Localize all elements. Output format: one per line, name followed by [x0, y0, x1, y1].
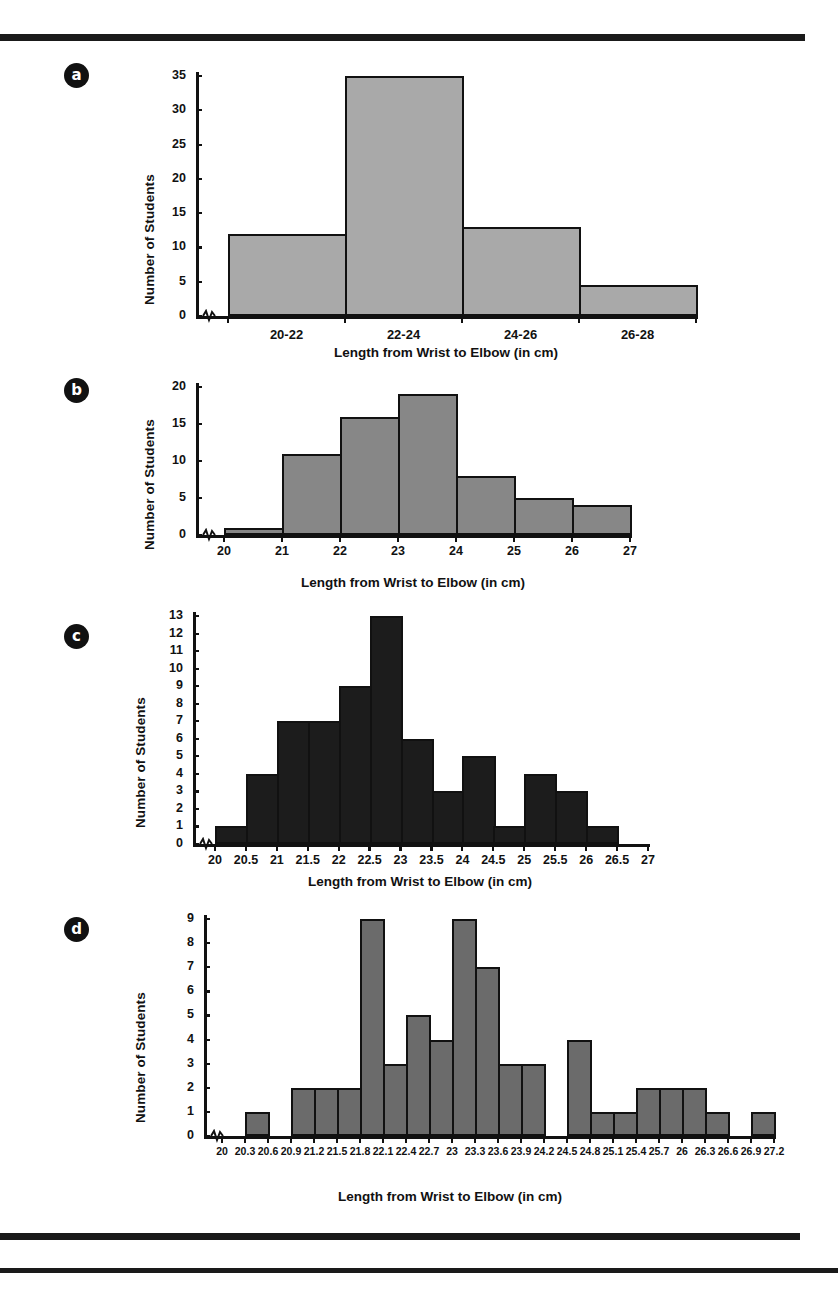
panel-label-d: d: [64, 917, 89, 942]
x-tick-label: 23.5: [419, 853, 443, 867]
bar-c-8: [462, 756, 495, 844]
bar-c-9: [493, 826, 526, 844]
y-tick-mark: [196, 212, 202, 214]
x-tick-label: 25: [507, 544, 521, 558]
bar-d-9: [429, 1040, 454, 1136]
bar-d-1: [245, 1112, 270, 1136]
y-axis-title-d: Number of Students: [133, 992, 148, 1123]
x-tick-label: 25.1: [603, 1145, 623, 1157]
x-tick-mark: [382, 1136, 384, 1143]
x-tick-mark: [461, 316, 463, 323]
x-tick-mark: [313, 1136, 315, 1143]
bar-d-5: [337, 1088, 362, 1136]
y-tick-label: 8: [176, 696, 183, 710]
x-tick-label: 26: [676, 1145, 688, 1157]
bottom-divider-rule-1: [0, 1233, 800, 1240]
x-tick-mark: [214, 844, 216, 851]
bar-d-3: [291, 1088, 316, 1136]
bar-b-6: [572, 505, 632, 535]
x-tick-label: 22.4: [396, 1145, 416, 1157]
x-tick-mark: [227, 316, 229, 323]
x-tick-mark: [474, 1136, 476, 1143]
y-tick-mark: [193, 773, 199, 775]
y-tick-label: 20: [172, 171, 186, 185]
bar-a-2: [462, 227, 581, 316]
y-tick-mark: [193, 703, 199, 705]
y-tick-label: 2: [176, 801, 183, 815]
y-tick-label: 5: [179, 490, 186, 504]
y-tick-label: 25: [172, 137, 186, 151]
x-tick-mark: [497, 1136, 499, 1143]
x-tick-mark: [571, 535, 573, 542]
y-tick-label: 5: [176, 748, 183, 762]
x-tick-label: 24.5: [481, 853, 505, 867]
x-tick-mark: [336, 1136, 338, 1143]
x-tick-label: 20.6: [258, 1145, 278, 1157]
x-tick-label: 25.7: [649, 1145, 669, 1157]
x-tick-mark: [368, 844, 370, 851]
bar-a-0: [228, 234, 347, 316]
x-tick-mark: [276, 844, 278, 851]
x-tick-label: 22: [332, 853, 346, 867]
y-tick-label: 9: [176, 678, 183, 692]
x-category-label-a-0: 20-22: [270, 327, 303, 342]
x-tick-label: 20.3: [235, 1145, 255, 1157]
x-tick-mark: [344, 316, 346, 323]
y-tick-label: 3: [176, 783, 183, 797]
bar-d-8: [406, 1015, 431, 1136]
x-axis-line-a: [196, 316, 698, 319]
y-tick-mark: [193, 755, 199, 757]
y-tick-label: 7: [176, 713, 183, 727]
bar-c-1: [246, 774, 279, 844]
y-tick-label: 11: [170, 643, 183, 657]
chart-panel-c: c Number of Students 0123456789101112132…: [0, 600, 838, 890]
x-tick-label: 23.3: [465, 1145, 485, 1157]
y-tick-label: 10: [172, 453, 186, 467]
y-tick-label: 15: [172, 205, 186, 219]
y-tick-label: 1: [176, 818, 183, 832]
y-tick-mark: [193, 720, 199, 722]
y-tick-mark: [193, 825, 199, 827]
bar-b-2: [340, 417, 400, 535]
y-tick-label: 0: [176, 836, 183, 850]
y-tick-mark: [193, 615, 199, 617]
y-tick-mark: [204, 942, 210, 944]
y-tick-mark: [193, 685, 199, 687]
x-tick-label: 21.5: [327, 1145, 347, 1157]
x-tick-mark: [658, 1136, 660, 1143]
bottom-divider-rule-2: [0, 1268, 838, 1273]
bar-c-5: [370, 616, 403, 844]
y-tick-label: 0: [187, 1128, 194, 1142]
y-axis-title-c: Number of Students: [133, 697, 148, 828]
y-tick-mark: [196, 246, 202, 248]
x-tick-mark: [635, 1136, 637, 1143]
x-tick-mark: [223, 535, 225, 542]
x-tick-mark: [543, 1136, 545, 1143]
x-axis-line-c: [193, 844, 650, 847]
y-tick-label: 8: [187, 935, 194, 949]
x-tick-label: 25.4: [626, 1145, 646, 1157]
y-tick-mark: [193, 738, 199, 740]
plot-area-b: 051015202021222324252627: [196, 387, 630, 535]
y-tick-mark: [196, 178, 202, 180]
bar-d-4: [314, 1088, 339, 1136]
bar-c-6: [401, 739, 434, 844]
x-tick-mark: [695, 316, 697, 323]
panel-label-c: c: [64, 624, 89, 649]
panel-label-a: a: [64, 63, 89, 88]
x-tick-mark: [773, 1136, 775, 1143]
x-tick-label: 27: [623, 544, 637, 558]
y-tick-mark: [193, 790, 199, 792]
bar-c-4: [339, 686, 372, 844]
bar-d-20: [682, 1088, 707, 1136]
y-tick-label: 20: [172, 379, 186, 393]
x-category-label-a-1: 22-24: [387, 327, 420, 342]
x-tick-label: 26.3: [695, 1145, 715, 1157]
y-axis-line-d: [204, 915, 207, 1136]
x-tick-mark: [221, 1136, 223, 1143]
x-tick-label: 22: [333, 544, 347, 558]
y-tick-mark: [196, 75, 202, 77]
bar-c-2: [277, 721, 310, 844]
y-tick-label: 35: [172, 68, 186, 82]
x-tick-label: 24: [455, 853, 469, 867]
